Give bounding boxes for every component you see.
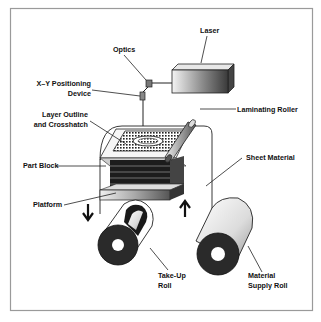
label-xy-device-1: X–Y Positioning (36, 79, 91, 88)
label-supply-roll-1: Material (248, 271, 275, 280)
label-take-up-2: Roll (158, 281, 172, 290)
label-xy-device-2: Device (68, 89, 91, 98)
label-platform: Platform (33, 200, 62, 209)
optics-mirror (146, 80, 152, 87)
laser-box (172, 64, 234, 93)
label-laser: Laser (200, 26, 219, 35)
platform (100, 184, 184, 200)
label-part-block: Part Block (23, 161, 59, 170)
label-layer-outline-2: and Crosshatch (34, 120, 88, 129)
label-sheet-material: Sheet Material (246, 153, 295, 162)
lom-process-diagram: Optics Laser X–Y Positioning Device Laye… (0, 0, 321, 322)
label-layer-outline-1: Layer Outline (42, 110, 88, 119)
label-supply-roll-2: Supply Roll (248, 281, 288, 290)
label-optics: Optics (113, 45, 135, 54)
label-take-up-1: Take-Up (158, 271, 186, 280)
xy-positioning-device (140, 92, 145, 100)
label-laminating-roller: Laminating Roller (237, 105, 298, 114)
